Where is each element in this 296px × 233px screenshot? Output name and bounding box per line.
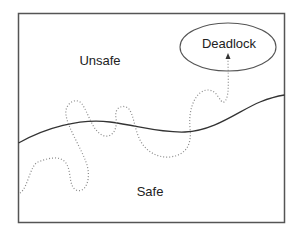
unsafe-region-label: Unsafe bbox=[79, 53, 120, 68]
safe-region-label: Safe bbox=[137, 184, 164, 199]
arrow-head-icon bbox=[226, 53, 231, 59]
state-space-diagram: Deadlock Unsafe Safe bbox=[0, 0, 296, 233]
deadlock-label: Deadlock bbox=[202, 36, 257, 51]
safe-unsafe-boundary bbox=[19, 95, 285, 143]
execution-trajectory bbox=[20, 58, 228, 193]
